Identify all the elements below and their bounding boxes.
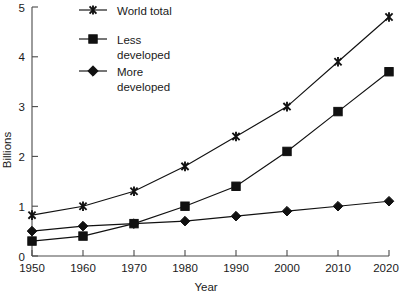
data-point xyxy=(27,226,37,236)
data-point xyxy=(78,221,88,231)
y-tick-label: 5 xyxy=(19,2,25,14)
legend-label: Less xyxy=(117,34,142,46)
y-tick-label: 3 xyxy=(19,101,25,113)
chart-canvas: 5 4 3 2 1 0 1950 1960 1970 1980 1990 200… xyxy=(0,0,402,296)
data-point xyxy=(232,132,239,142)
x-tick-label: 1980 xyxy=(172,262,198,274)
data-point xyxy=(334,57,341,67)
x-axis-title: Year xyxy=(194,281,217,293)
x-tick-label: 1990 xyxy=(223,262,249,274)
y-tick-label: 4 xyxy=(19,51,26,63)
data-point xyxy=(181,202,189,210)
legend-marker-diamond xyxy=(88,66,98,76)
x-tick-label: 2000 xyxy=(274,262,300,274)
legend-item-less-developed: Less developed xyxy=(79,34,170,61)
legend-item-more-developed: More developed xyxy=(79,66,170,93)
legend-label: More xyxy=(117,66,143,78)
legend-label: World total xyxy=(117,5,172,17)
line-chart: 5 4 3 2 1 0 1950 1960 1970 1980 1990 200… xyxy=(0,0,402,296)
legend-item-world-total: World total xyxy=(79,5,172,17)
data-point xyxy=(181,162,188,172)
x-tick-label: 2010 xyxy=(325,262,351,274)
data-point xyxy=(384,196,394,206)
data-point xyxy=(231,211,241,221)
data-point xyxy=(385,12,392,22)
y-axis-title: Billions xyxy=(1,132,13,169)
y-tick-label: 1 xyxy=(19,201,25,213)
x-tick-label: 1970 xyxy=(121,262,147,274)
data-point xyxy=(180,216,190,226)
data-point xyxy=(282,206,292,216)
series-line-less-developed xyxy=(32,72,389,241)
data-point xyxy=(79,232,87,240)
legend-label: developed xyxy=(117,81,170,93)
y-tick-label: 0 xyxy=(19,251,25,263)
data-point xyxy=(334,107,342,115)
legend-marker-square xyxy=(89,35,97,43)
x-tick-label: 2020 xyxy=(373,262,399,274)
x-axis-ticks xyxy=(32,250,389,256)
data-point xyxy=(283,147,291,155)
legend-label: developed xyxy=(117,49,170,61)
data-point xyxy=(130,186,137,196)
data-point xyxy=(283,102,290,112)
y-axis-tick-labels: 5 4 3 2 1 0 xyxy=(19,2,26,263)
x-tick-label: 1960 xyxy=(70,262,96,274)
x-tick-label: 1950 xyxy=(19,262,45,274)
x-axis-tick-labels: 1950 1960 1970 1980 1990 2000 2010 2020 xyxy=(19,262,399,274)
data-point xyxy=(232,182,240,190)
data-point xyxy=(333,201,343,211)
data-point xyxy=(385,68,393,76)
data-point xyxy=(28,237,36,245)
series-layer xyxy=(27,12,394,245)
y-tick-label: 2 xyxy=(19,151,25,163)
chart-legend: World total Less developed More develope… xyxy=(79,5,172,93)
